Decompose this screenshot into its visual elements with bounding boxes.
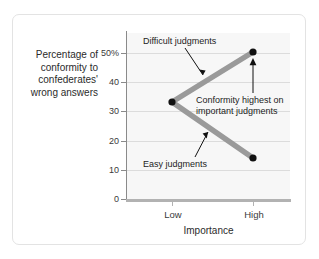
annotation-arrow-easy [195, 132, 208, 157]
annotation-easy-judgments: Easy judgments [143, 159, 207, 170]
annotation-conformity-highest: Conformity highest on important judgment… [196, 95, 294, 117]
annotation-conformity-highest-line2: important judgments [196, 106, 294, 117]
annotation-conformity-highest-line1: Conformity highest on [196, 95, 294, 106]
data-point-high-difficult [249, 48, 256, 55]
data-point-low-shared [168, 98, 175, 105]
annotation-arrow-difficult [185, 48, 206, 75]
data-point-high-easy [249, 154, 256, 161]
chart-figure: 50% 40 30 20 10 0 Low High Importance Pe… [0, 0, 319, 259]
annotation-arrow-highest [250, 58, 257, 93]
annotation-difficult-judgments: Difficult judgments [143, 36, 216, 47]
